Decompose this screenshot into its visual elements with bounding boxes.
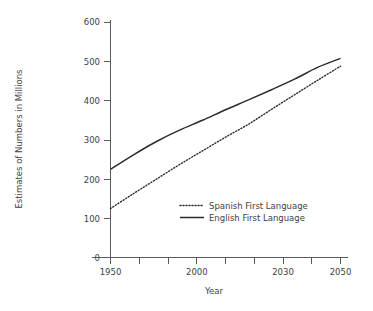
chart-container: 600 500 400 300 200 100 0 1950 2000 2030… <box>0 0 373 311</box>
x-axis-ticks <box>111 258 341 265</box>
y-tick-label-0: 0 <box>95 253 100 263</box>
y-tick-label-100: 100 <box>84 214 100 224</box>
x-tick-label-1950: 1950 <box>100 267 122 277</box>
x-axis-tick-labels: 1950 2000 2030 2050 <box>100 267 352 277</box>
x-tick-label-2050: 2050 <box>330 267 352 277</box>
x-tick-label-2030: 2030 <box>272 267 294 277</box>
y-tick-label-200: 200 <box>84 175 100 185</box>
y-axis-ticks <box>104 22 111 257</box>
series-line-spanish-first-language <box>111 66 341 208</box>
y-tick-label-600: 600 <box>84 17 100 27</box>
x-tick-label-2000: 2000 <box>186 267 208 277</box>
y-axis-title: Estimates of Numbers in Millions <box>14 69 24 209</box>
x-axis-title: Year <box>204 286 224 296</box>
y-tick-label-400: 400 <box>84 96 100 106</box>
language-speakers-line-chart: 600 500 400 300 200 100 0 1950 2000 2030… <box>0 0 373 311</box>
legend-label-english: English First Language <box>209 213 305 223</box>
legend-label-spanish: Spanish First Language <box>209 201 308 211</box>
y-tick-label-300: 300 <box>84 135 100 145</box>
y-tick-label-500: 500 <box>84 57 100 67</box>
series-line-english-first-language <box>111 58 341 169</box>
y-axis-tick-labels: 600 500 400 300 200 100 0 <box>84 17 100 262</box>
chart-legend: Spanish First Language English First Lan… <box>180 201 308 223</box>
